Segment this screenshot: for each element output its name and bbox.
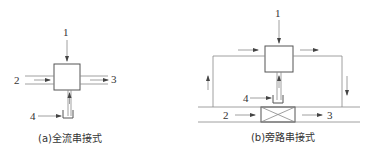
label-1: 1 — [275, 7, 281, 19]
label-2: 2 — [14, 74, 20, 86]
bypass-line-right — [293, 56, 342, 107]
label-1: 1 — [63, 26, 69, 38]
caption-b: (b)旁路串接式 — [251, 131, 315, 143]
label-4: 4 — [30, 110, 36, 122]
diagram-canvas: 1 2 3 4 (a)全流串接式 1 — [0, 0, 371, 157]
label-2: 2 — [223, 109, 229, 121]
unit-box-a — [54, 64, 80, 90]
diagram-a-full-flow-series: 1 2 3 4 (a)全流串接式 — [14, 26, 117, 144]
unit-box-b — [265, 46, 293, 72]
reagent-cup — [273, 95, 283, 103]
label-4: 4 — [243, 92, 249, 104]
diagram-b-bypass-series: 1 2 3 4 (b)旁路串接式 — [198, 7, 360, 143]
label-3: 3 — [327, 109, 333, 121]
label-3: 3 — [111, 73, 117, 85]
caption-a: (a)全流串接式 — [38, 132, 102, 144]
bypass-line-left — [213, 56, 265, 107]
